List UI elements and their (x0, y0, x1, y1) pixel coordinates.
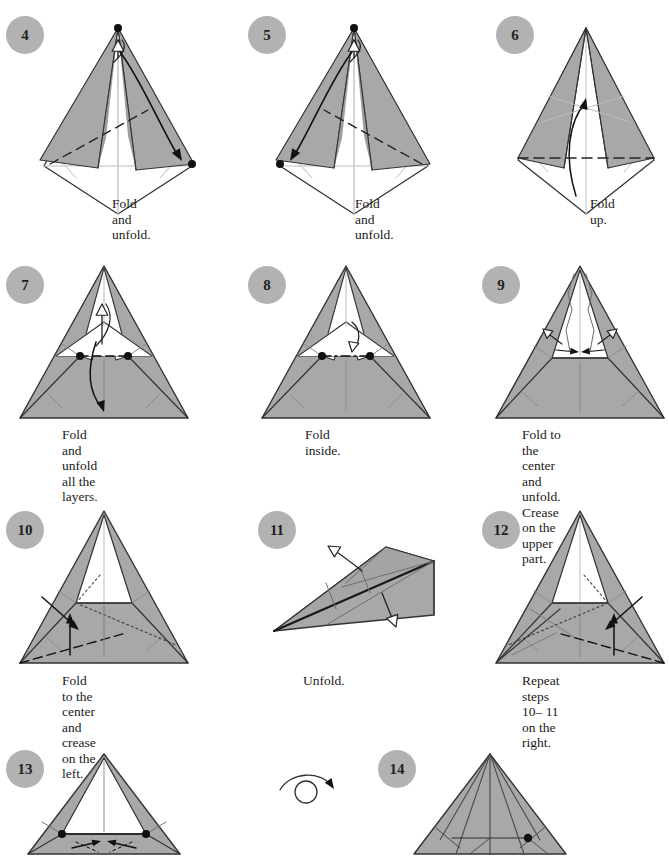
step-caption: Fold and unfold. (112, 196, 151, 243)
step-caption: Repeat steps 10– 11 on the right. (522, 673, 559, 751)
origami-figure-triangle-open (256, 260, 436, 425)
origami-figure-step-14 (400, 748, 580, 858)
origami-figure-creased (400, 748, 580, 858)
step-caption: Fold inside. (305, 427, 341, 458)
origami-figure-step-4 (36, 18, 201, 218)
origami-figure-narrow (14, 748, 194, 858)
origami-figure-step-11 (266, 505, 466, 645)
origami-figure-triangle-pocket (490, 260, 669, 425)
step-caption: Fold up. (590, 196, 615, 227)
origami-figure-step-6 (512, 18, 662, 218)
turn-over-icon (276, 768, 342, 806)
origami-figure-step-7 (14, 260, 194, 425)
step-caption: Fold and unfold. (355, 196, 394, 243)
step-caption: Unfold. (303, 673, 345, 689)
origami-figure-triangle-pocket (14, 505, 194, 670)
origami-figure-wedge (266, 505, 466, 645)
turn-over-arrow (276, 768, 342, 806)
origami-figure-triangle-pocket (490, 505, 669, 670)
origami-figure-kite-tall (272, 18, 437, 218)
origami-figure-step-8 (256, 260, 436, 425)
origami-figure-step-12 (490, 505, 669, 670)
origami-figure-kite-wide (512, 18, 662, 218)
origami-figure-step-5 (272, 18, 437, 218)
origami-figure-step-9 (490, 260, 669, 425)
origami-figure-step-10 (14, 505, 194, 670)
origami-figure-triangle-open (14, 260, 194, 425)
origami-figure-step-13 (14, 748, 194, 858)
origami-figure-kite-tall (36, 18, 201, 218)
step-caption: Fold and unfold all the layers. (62, 427, 98, 505)
